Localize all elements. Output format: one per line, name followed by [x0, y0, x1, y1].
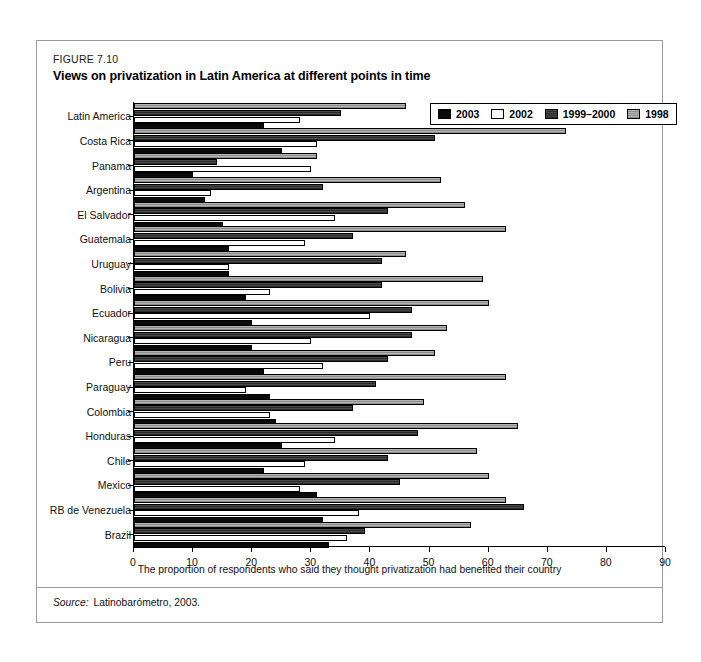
bar[interactable] [134, 313, 370, 319]
category-label: Bolivia [0, 283, 131, 295]
bar[interactable] [134, 522, 471, 528]
bar[interactable] [134, 399, 424, 405]
bar-group: Honduras [133, 424, 665, 449]
source-label: Source: [53, 597, 89, 608]
bar-group: Latin America [133, 104, 665, 129]
bar[interactable] [134, 215, 335, 221]
bar-group: Costa Rica [133, 129, 665, 154]
bar[interactable] [134, 190, 211, 196]
category-label: Chile [0, 455, 131, 467]
bar[interactable] [134, 542, 329, 548]
bar[interactable] [134, 226, 506, 232]
bar[interactable] [134, 233, 353, 239]
bar[interactable] [134, 448, 477, 454]
category-label: Peru [0, 356, 131, 368]
bar[interactable] [134, 282, 382, 288]
bar[interactable] [134, 208, 388, 214]
bar[interactable] [134, 381, 376, 387]
bar[interactable] [134, 497, 506, 503]
bar[interactable] [134, 103, 406, 109]
bar[interactable] [134, 423, 518, 429]
figure-title: Views on privatization in Latin America … [53, 69, 430, 83]
bar[interactable] [134, 486, 300, 492]
bar[interactable] [134, 300, 489, 306]
figure-number: FIGURE 7.10 [53, 53, 118, 65]
bar[interactable] [134, 202, 465, 208]
bar[interactable] [134, 479, 400, 485]
category-label: El Salvador [0, 209, 131, 221]
bar[interactable] [134, 338, 311, 344]
category-label: Argentina [0, 184, 131, 196]
bar[interactable] [134, 141, 317, 147]
x-axis-tick [192, 547, 193, 552]
x-axis-tick [429, 547, 430, 552]
bar[interactable] [134, 240, 305, 246]
bar[interactable] [134, 387, 246, 393]
bar[interactable] [134, 332, 412, 338]
bar[interactable] [134, 430, 418, 436]
bar[interactable] [134, 356, 388, 362]
bar[interactable] [134, 325, 447, 331]
bar-group: Chile [133, 449, 665, 474]
bar[interactable] [134, 251, 406, 257]
bar[interactable] [134, 184, 323, 190]
bar[interactable] [134, 437, 335, 443]
x-axis-caption: The proportion of respondents who said t… [37, 564, 662, 575]
bar[interactable] [134, 135, 435, 141]
category-label: Panama [0, 160, 131, 172]
bar[interactable] [134, 535, 347, 541]
x-axis-tick [547, 547, 548, 552]
x-axis-tick [310, 547, 311, 552]
bar-group: RB de Venezuela [133, 498, 665, 523]
bar[interactable] [134, 264, 229, 270]
bar[interactable] [134, 128, 566, 134]
bar[interactable] [134, 110, 341, 116]
bar[interactable] [134, 153, 317, 159]
bar[interactable] [134, 412, 270, 418]
bar-group: Colombia [133, 399, 665, 424]
category-label: Ecuador [0, 307, 131, 319]
bar[interactable] [134, 363, 323, 369]
source-divider [37, 587, 662, 588]
x-axis-tick [133, 547, 134, 552]
bar[interactable] [134, 405, 353, 411]
category-label: Costa Rica [0, 135, 131, 147]
bar[interactable] [134, 510, 359, 516]
figure-frame: FIGURE 7.10 Views on privatization in La… [36, 40, 663, 623]
bar[interactable] [134, 159, 217, 165]
bar-group: Uruguay [133, 252, 665, 277]
bar-group: Paraguay [133, 375, 665, 400]
bar[interactable] [134, 117, 300, 123]
category-label: Brazil [0, 529, 131, 541]
category-label: Uruguay [0, 258, 131, 270]
bar-group: Bolivia [133, 276, 665, 301]
bar[interactable] [134, 166, 311, 172]
bar[interactable] [134, 461, 305, 467]
category-label: RB de Venezuela [0, 504, 131, 516]
bar-group: Argentina [133, 178, 665, 203]
bar[interactable] [134, 289, 270, 295]
bar[interactable] [134, 350, 435, 356]
bar-group: Peru [133, 350, 665, 375]
bar[interactable] [134, 374, 506, 380]
bar-group: Brazil [133, 522, 665, 547]
bar[interactable] [134, 177, 441, 183]
bar[interactable] [134, 276, 483, 282]
category-label: Guatemala [0, 233, 131, 245]
bar[interactable] [134, 473, 489, 479]
bar-group: Mexico [133, 473, 665, 498]
bar[interactable] [134, 455, 388, 461]
x-axis-tick [251, 547, 252, 552]
bar[interactable] [134, 528, 365, 534]
bar[interactable] [134, 258, 382, 264]
category-label: Nicaragua [0, 332, 131, 344]
source-value: Latinobarómetro, 2003. [94, 597, 200, 608]
bar[interactable] [134, 504, 524, 510]
x-axis-tick [369, 547, 370, 552]
bar-group: Ecuador [133, 301, 665, 326]
bar-group: El Salvador [133, 202, 665, 227]
category-label: Honduras [0, 430, 131, 442]
x-axis-tick [488, 547, 489, 552]
bar[interactable] [134, 307, 412, 313]
category-label: Latin America [0, 110, 131, 122]
